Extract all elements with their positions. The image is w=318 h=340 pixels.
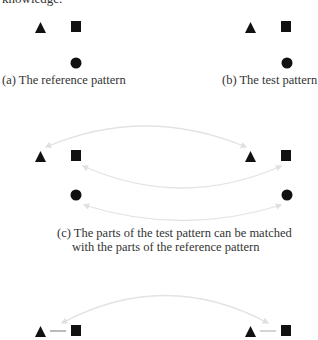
- square-icon: [71, 325, 81, 336]
- triangle-icon: [245, 326, 256, 337]
- triangle-icon: [245, 22, 256, 33]
- circle-icon: [71, 58, 82, 69]
- triangle-icon: [35, 151, 46, 162]
- triangle-icon: [35, 326, 46, 337]
- triangle-match-arrow: [46, 126, 246, 147]
- test-pattern: [245, 21, 293, 69]
- relation-match-arrow: [62, 296, 268, 324]
- caption-matched-parts-line1: (c) The parts of the test pattern can be…: [57, 226, 292, 240]
- circle-icon: [282, 58, 293, 69]
- triangle-icon: [245, 151, 256, 162]
- square-icon: [71, 150, 81, 161]
- caption-test-pattern: (b) The test pattern: [222, 73, 317, 87]
- reference-pattern: [35, 21, 82, 69]
- triangle-icon: [35, 22, 46, 33]
- square-icon: [281, 21, 291, 32]
- caption-matched-parts-line2: with the parts of the reference pattern: [72, 240, 259, 254]
- circle-icon: [71, 190, 82, 201]
- square-icon: [281, 325, 291, 336]
- circle-match-arrow: [84, 205, 281, 221]
- matched-parts-panel: [35, 126, 293, 221]
- square-icon: [71, 21, 81, 32]
- circle-icon: [282, 190, 293, 201]
- caption-reference-pattern: (a) The reference pattern: [2, 73, 126, 87]
- pattern-matching-diagram: [0, 0, 318, 340]
- square-match-arrow: [83, 166, 281, 188]
- matched-relations-panel: [35, 296, 291, 338]
- square-icon: [281, 150, 291, 161]
